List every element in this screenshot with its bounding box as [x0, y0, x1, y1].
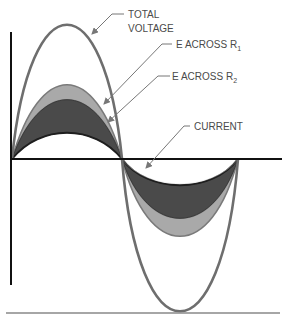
- label-e-r1-subscript: 1: [237, 45, 241, 52]
- label-total-voltage-line1: TOTAL: [128, 9, 160, 20]
- leader-current: [146, 126, 190, 168]
- label-current: CURRENT: [194, 121, 243, 132]
- e-r2-band-positive: [12, 100, 122, 159]
- leader-e-r2: [108, 76, 170, 122]
- leader-total-voltage: [92, 14, 124, 34]
- waveform-diagram: TOTAL VOLTAGE E ACROSS R1 E ACROSS R2 CU…: [0, 0, 290, 317]
- label-e-r2-text: E ACROSS R: [172, 71, 233, 82]
- e-r2-band-negative: [122, 159, 238, 218]
- label-e-r2-subscript: 2: [233, 77, 237, 84]
- label-e-across-r2: E ACROSS R2: [172, 71, 237, 84]
- label-total-voltage-line2: VOLTAGE: [128, 23, 174, 34]
- label-e-r1-text: E ACROSS R: [176, 39, 237, 50]
- label-e-across-r1: E ACROSS R1: [176, 39, 241, 52]
